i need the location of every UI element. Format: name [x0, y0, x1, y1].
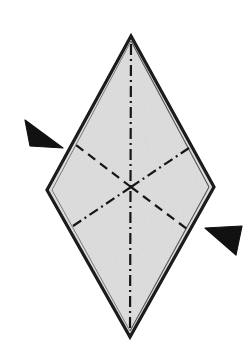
- origami-diagram-figure: Shaded diamond (rhombus) shape with dash…: [0, 0, 252, 360]
- origami-diagram-canvas: [0, 0, 252, 360]
